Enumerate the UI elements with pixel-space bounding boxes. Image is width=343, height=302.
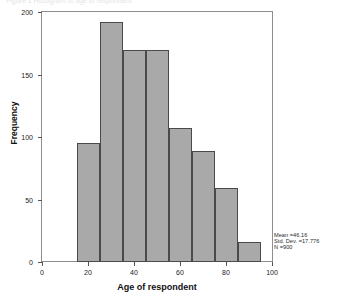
y-axis-tick-label: 50 xyxy=(7,197,33,204)
x-axis-title: Age of respondent xyxy=(41,282,273,292)
x-axis-tick-label: 100 xyxy=(260,269,284,276)
y-axis-tick-label: 100 xyxy=(7,134,33,141)
y-axis-tick-label: 0 xyxy=(7,259,33,266)
x-axis-tick xyxy=(226,262,227,266)
x-axis-tick-label: 0 xyxy=(30,269,54,276)
x-axis-tick xyxy=(180,262,181,266)
x-axis-tick-label: 80 xyxy=(214,269,238,276)
y-axis-tick-label: 150 xyxy=(7,72,33,79)
x-axis-tick xyxy=(134,262,135,266)
x-axis-tick-label: 20 xyxy=(76,269,100,276)
y-axis-tick xyxy=(38,200,42,201)
axes-decorations: Frequency 050100150200020406080100 xyxy=(0,0,343,302)
y-axis-title: Frequency xyxy=(9,73,19,173)
y-axis-tick xyxy=(38,137,42,138)
x-axis-tick xyxy=(272,262,273,266)
x-axis-tick xyxy=(42,262,43,266)
y-axis-tick-label: 200 xyxy=(7,9,33,16)
x-axis-tick-label: 40 xyxy=(122,269,146,276)
histogram-figure: Figure 1 Histogram of age of respondent … xyxy=(0,0,343,302)
x-axis-tick xyxy=(88,262,89,266)
sample-size-label: N =900 xyxy=(274,244,319,250)
x-axis-tick-label: 60 xyxy=(168,269,192,276)
y-axis-tick xyxy=(38,12,42,13)
y-axis-tick xyxy=(38,75,42,76)
statistics-annotation: Mean =46.16 Std. Dev. =17.776 N =900 xyxy=(274,232,319,251)
